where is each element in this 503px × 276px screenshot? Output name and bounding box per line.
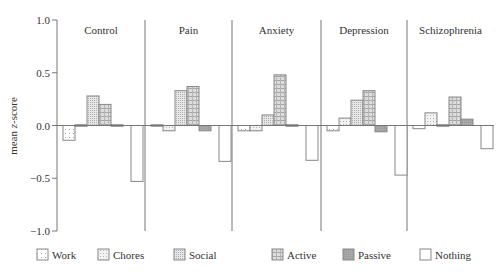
chart: 1.00.50.0−0.5−1.0 ControlPainAnxietyDepr…	[0, 0, 503, 276]
bar-anxiety-active	[274, 75, 286, 126]
legend-label: Work	[52, 249, 77, 261]
y-axis: 1.00.50.0−0.5−1.0	[30, 14, 57, 237]
bar-control-active	[99, 104, 111, 125]
bar-pain-active	[187, 86, 199, 125]
y-tick-label: −1.0	[30, 225, 50, 237]
legend: WorkChoresSocialActivePassiveNothing	[37, 249, 472, 261]
legend-swatch	[420, 249, 431, 260]
bar-anxiety-nothing	[306, 126, 318, 161]
legend-item-active: Active	[272, 249, 316, 261]
legend-label: Nothing	[435, 249, 472, 261]
bar-anxiety-social	[262, 115, 274, 126]
legend-swatch	[174, 249, 185, 260]
y-tick-label: −0.5	[30, 172, 50, 184]
legend-swatch	[98, 249, 109, 260]
legend-item-nothing: Nothing	[420, 249, 472, 261]
bar-depression-passive	[375, 126, 387, 132]
legend-item-chores: Chores	[98, 249, 144, 261]
bar-depression-active	[363, 91, 375, 126]
bar-schizophrenia-nothing	[481, 126, 493, 149]
bar-depression-social	[351, 100, 363, 125]
panel-label-depression: Depression	[339, 24, 389, 36]
legend-item-work: Work	[37, 249, 77, 261]
legend-label: Active	[287, 249, 316, 261]
bar-schizophrenia-chores	[425, 113, 437, 126]
bar-depression-nothing	[395, 126, 407, 176]
bar-control-social	[87, 96, 99, 126]
bar-control-nothing	[131, 126, 143, 182]
panel-label-pain: Pain	[179, 24, 199, 36]
panel-label-control: Control	[84, 24, 118, 36]
bar-pain-social	[175, 91, 187, 126]
bar-pain-passive	[199, 126, 211, 131]
legend-item-passive: Passive	[343, 249, 391, 261]
panel-label-schizophrenia: Schizophrenia	[419, 24, 482, 36]
legend-label: Social	[189, 249, 217, 261]
bar-schizophrenia-passive	[461, 119, 473, 125]
y-tick-label: 0.0	[36, 120, 50, 132]
bar-depression-work	[327, 126, 339, 131]
bar-pain-chores	[163, 126, 175, 131]
bar-schizophrenia-active	[449, 97, 461, 125]
bars	[63, 75, 493, 182]
legend-item-social: Social	[174, 249, 217, 261]
bar-anxiety-chores	[250, 126, 262, 131]
bar-control-work	[63, 126, 75, 141]
bar-pain-nothing	[219, 126, 231, 162]
bar-depression-chores	[339, 118, 351, 125]
y-tick-label: 1.0	[36, 14, 50, 26]
legend-swatch	[343, 249, 354, 260]
y-axis-label: mean z-score	[7, 97, 19, 155]
y-tick-label: 0.5	[36, 67, 50, 79]
bar-anxiety-work	[238, 126, 250, 131]
legend-swatch	[37, 249, 48, 260]
legend-label: Chores	[113, 249, 144, 261]
panel-label-anxiety: Anxiety	[259, 24, 295, 36]
legend-swatch	[272, 249, 283, 260]
legend-label: Passive	[358, 249, 391, 261]
